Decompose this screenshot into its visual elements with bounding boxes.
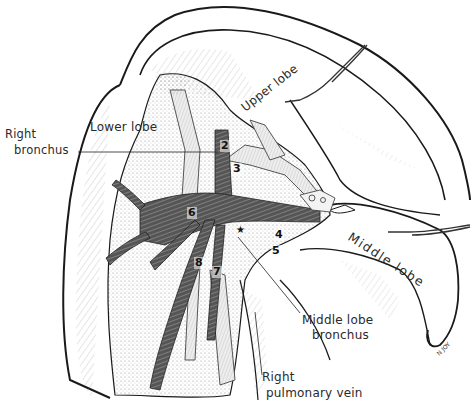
anatomical-illustration: Right bronchus Lower lobe Upper lobe Mid… bbox=[0, 0, 476, 410]
marker-2: 2 bbox=[220, 140, 230, 152]
label-right-bronchus-line2: bronchus bbox=[14, 144, 69, 157]
star-marker-icon: ★ bbox=[235, 224, 246, 236]
marker-6: 6 bbox=[187, 207, 197, 219]
marker-3: 3 bbox=[232, 163, 242, 175]
label-right-pulmonary-vein-line2: pulmonary vein bbox=[266, 387, 363, 400]
label-right-bronchus-line1: Right bbox=[5, 128, 36, 141]
marker-7: 7 bbox=[212, 266, 222, 278]
label-right-pulmonary-vein-line1: Right bbox=[262, 371, 295, 384]
marker-5: 5 bbox=[271, 245, 281, 257]
label-middle-lobe-bronchus-line2: bronchus bbox=[312, 329, 369, 342]
label-middle-lobe-bronchus-line1: Middle lobe bbox=[302, 314, 373, 327]
marker-8: 8 bbox=[194, 257, 204, 269]
label-lower-lobe: Lower lobe bbox=[90, 121, 157, 134]
marker-4: 4 bbox=[274, 229, 284, 241]
lung-drawing bbox=[0, 0, 476, 410]
